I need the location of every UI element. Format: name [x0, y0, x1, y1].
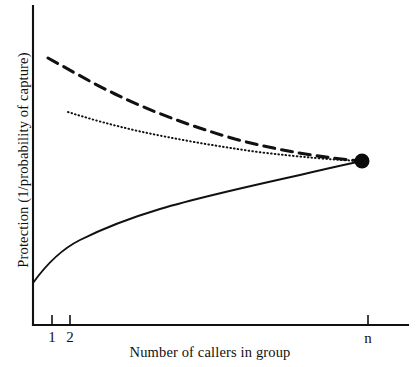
series-dotted-curve: [68, 112, 362, 161]
convergence-point-marker: [355, 154, 370, 169]
chart-figure: 1 2 n Number of callers in group Protect…: [0, 0, 416, 367]
x-tick-label-2: 2: [63, 330, 77, 345]
series-solid-curve: [33, 161, 362, 283]
series-dashed-curve: [48, 58, 362, 161]
y-axis-title: Protection (1/probability of capture): [15, 35, 32, 285]
chart-plot-area: [0, 0, 416, 367]
x-axis-title: Number of callers in group: [90, 344, 330, 361]
y-axis-title-wrapper: Protection (1/probability of capture): [15, 35, 35, 285]
x-tick-label-1: 1: [45, 330, 59, 345]
x-tick-label-n: n: [361, 331, 375, 346]
